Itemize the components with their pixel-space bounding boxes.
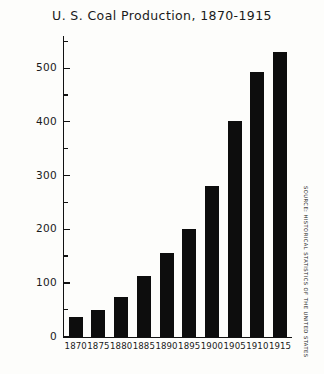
y-axis-tick-label: 0 xyxy=(50,330,57,342)
bar-1915 xyxy=(273,52,287,336)
y-axis-tick-major xyxy=(64,175,70,176)
y-axis-tick-major xyxy=(64,336,70,337)
x-axis-tick-label: 1875 xyxy=(87,341,110,351)
y-axis-tick-minor xyxy=(64,255,68,256)
chart-page: U. S. Coal Production, 1870-1915 Million… xyxy=(0,0,324,374)
y-axis-tick-major xyxy=(64,282,70,283)
plot-area xyxy=(63,36,292,338)
bar-1900 xyxy=(205,186,219,337)
bar-1885 xyxy=(137,276,151,336)
x-axis-tick-label: 1880 xyxy=(110,341,133,351)
x-axis-tick-label: 1905 xyxy=(223,341,246,351)
y-axis-tick-minor xyxy=(64,148,68,149)
chart-title: U. S. Coal Production, 1870-1915 xyxy=(0,8,324,23)
x-axis-tick-label: 1900 xyxy=(201,341,224,351)
bar-1880 xyxy=(114,297,128,336)
x-axis-tick-label: 1870 xyxy=(64,341,87,351)
x-axis-line xyxy=(63,337,292,338)
bar-1910 xyxy=(250,72,264,337)
bar-1890 xyxy=(160,253,174,336)
y-axis-tick-label: 500 xyxy=(36,61,57,73)
x-axis-tick-labels: 1870187518801885189018951900190519101915 xyxy=(63,341,292,355)
y-axis-tick-label: 200 xyxy=(36,222,57,234)
x-axis-tick-label: 1910 xyxy=(246,341,269,351)
bar-1875 xyxy=(91,310,105,337)
y-axis-tick-major xyxy=(64,229,70,230)
y-axis-tick-label: 300 xyxy=(36,169,57,181)
x-axis-tick-label: 1885 xyxy=(133,341,156,351)
y-axis-tick-minor xyxy=(64,41,68,42)
y-axis-tick-major xyxy=(64,121,70,122)
x-axis-tick-label: 1915 xyxy=(269,341,292,351)
y-axis-tick-label: 100 xyxy=(36,276,57,288)
x-axis-tick-label: 1895 xyxy=(178,341,201,351)
source-note: SOURCE: HISTORICAL STATISTICS OF THE UNI… xyxy=(303,186,309,358)
bar-1895 xyxy=(182,229,196,336)
y-axis-tick-labels: 0100200300400500 xyxy=(0,36,57,338)
y-axis-tick-minor xyxy=(64,202,68,203)
x-axis-tick-label: 1890 xyxy=(155,341,178,351)
y-axis-tick-minor xyxy=(64,309,68,310)
bar-1870 xyxy=(69,317,83,337)
y-axis-tick-minor xyxy=(64,94,68,95)
bar-series xyxy=(64,36,291,337)
y-axis-tick-label: 400 xyxy=(36,115,57,127)
bar-1905 xyxy=(228,121,242,336)
y-axis-tick-major xyxy=(64,68,70,69)
